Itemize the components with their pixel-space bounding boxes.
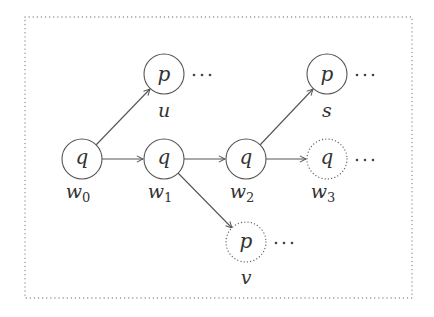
edge-w1-v bbox=[178, 173, 232, 228]
state-name: p bbox=[158, 62, 171, 86]
edges bbox=[96, 89, 313, 228]
ellipsis-icon bbox=[356, 159, 375, 162]
node-label: w0 bbox=[66, 180, 91, 205]
node-label: v bbox=[241, 266, 252, 288]
node-v: p v bbox=[226, 222, 293, 288]
run-tree-diagram: p u p s q w0 q w1 q w2 q w3 bbox=[0, 0, 434, 317]
node-label: s bbox=[322, 99, 332, 121]
node-w2: q w2 bbox=[226, 139, 266, 205]
node-w1: q w1 bbox=[144, 139, 184, 205]
node-label: u bbox=[158, 99, 170, 121]
state-name: q bbox=[321, 145, 334, 169]
edge-w2-s bbox=[260, 89, 313, 145]
state-name: q bbox=[240, 145, 253, 169]
node-u: p u bbox=[144, 54, 211, 121]
ellipsis-icon bbox=[275, 242, 294, 245]
edge-w0-u bbox=[96, 89, 150, 145]
state-name: p bbox=[321, 62, 334, 86]
state-name: q bbox=[158, 145, 171, 169]
node-label: w1 bbox=[148, 180, 173, 205]
node-w3: q w3 bbox=[307, 139, 374, 205]
node-w0: q w0 bbox=[62, 139, 102, 205]
node-s: p s bbox=[307, 54, 374, 121]
ellipsis-icon bbox=[356, 74, 375, 77]
node-label: w2 bbox=[230, 180, 255, 205]
node-label: w3 bbox=[311, 180, 336, 205]
state-name: q bbox=[76, 145, 89, 169]
ellipsis-icon bbox=[193, 74, 212, 77]
state-name: p bbox=[240, 229, 253, 253]
